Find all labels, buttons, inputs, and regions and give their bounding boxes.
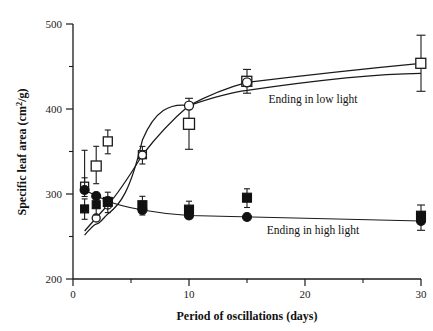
y-axis-title-end: /g)	[15, 89, 29, 103]
annotation-low-light: Ending in low light	[268, 93, 358, 106]
trend-curve-low-light	[85, 63, 421, 231]
series-high-light	[81, 189, 426, 231]
annotation-high-light: Ending in high light	[267, 224, 360, 237]
trend-line-high-light	[85, 190, 421, 221]
y-tick-label-500: 500	[46, 18, 63, 30]
x-tick-label-20: 20	[300, 288, 312, 300]
trend-markers-low-light	[92, 78, 251, 222]
x-tick-label-0: 0	[70, 288, 76, 300]
chart-figure: 500 400 300 200 0 10 20 30 Period of osc…	[0, 0, 433, 331]
datapoint-high-1	[81, 199, 89, 219]
chart-svg: 500 400 300 200 0 10 20 30 Period of osc…	[0, 0, 433, 331]
datapoint-low-3	[103, 130, 112, 154]
x-tick-label-10: 10	[184, 288, 196, 300]
datapoint-low-30	[416, 35, 426, 91]
trend-line-low-light	[85, 73, 421, 235]
datapoint-low-2b	[91, 146, 101, 183]
x-axis-title: Period of oscillations (days)	[177, 309, 318, 323]
x-tick-label-30: 30	[416, 288, 428, 300]
series-low-light	[81, 35, 426, 196]
y-tick-label-300: 300	[46, 188, 63, 200]
y-axis-title: Specific leaf area (cm2/g)	[14, 89, 29, 216]
y-tick-label-200: 200	[46, 273, 63, 285]
y-tick-label-400: 400	[46, 103, 63, 115]
svg-text:Specific leaf area (cm2/g): Specific leaf area (cm2/g)	[14, 89, 29, 216]
datapoint-high-15	[243, 189, 252, 208]
y-axis-title-main: Specific leaf area (cm	[15, 106, 29, 215]
